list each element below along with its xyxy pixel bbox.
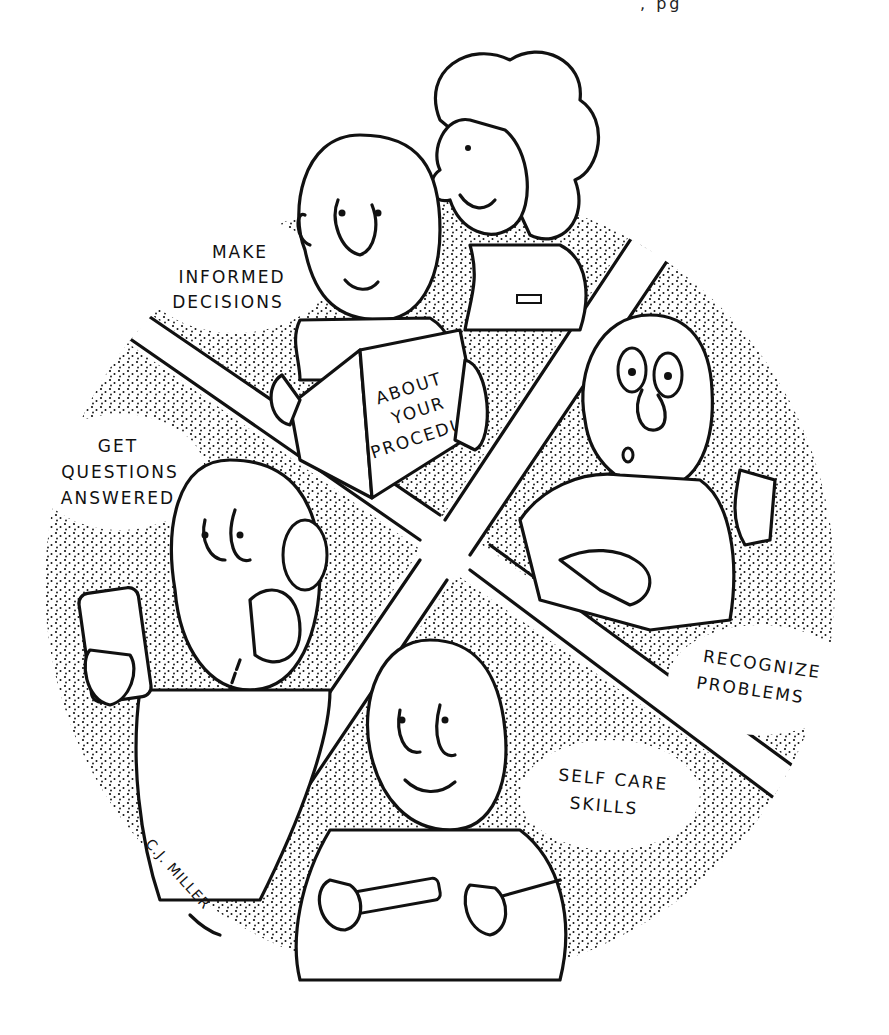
label-bubble-bottom bbox=[520, 740, 700, 850]
label-line: MAKE bbox=[212, 242, 268, 262]
signature-flourish bbox=[190, 915, 220, 935]
illustration: ABOUT YOUR PROCEDURE bbox=[0, 0, 889, 1035]
label-line: ANSWERED bbox=[61, 488, 175, 508]
label-line: INFORMED bbox=[178, 267, 285, 287]
label-line: QUESTIONS bbox=[61, 462, 179, 482]
label-line: DECISIONS bbox=[172, 292, 283, 312]
label-bubble-right bbox=[668, 625, 852, 735]
label-line: GET bbox=[98, 436, 138, 456]
